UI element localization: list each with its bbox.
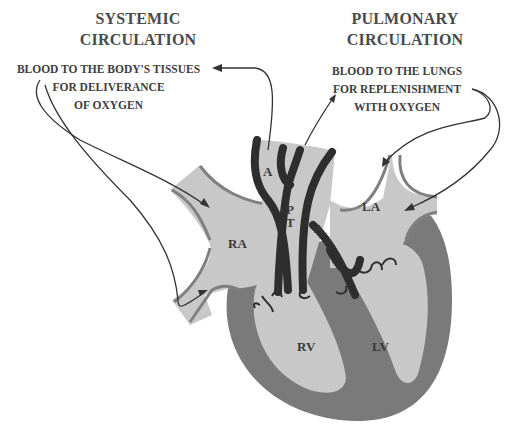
systemic-caption-line2: FOR DELIVERANCE <box>6 78 211 96</box>
systemic-circulation-title: SYSTEMIC CIRCULATION <box>68 8 208 50</box>
label-pulmonary-artery: A <box>314 222 323 235</box>
label-left-ventricle: LV <box>372 340 389 353</box>
label-left-atrium: LA <box>362 200 380 213</box>
pulmonary-circulation-title: PULMONARY CIRCULATION <box>325 8 485 50</box>
arrow-aorta-to-body <box>218 68 273 150</box>
heart-circulation-diagram: SYSTEMIC CIRCULATION PULMONARY CIRCULATI… <box>0 0 514 434</box>
label-aorta: A <box>263 165 272 178</box>
pulmonary-caption-line2: FOR REPLENISHMENT <box>322 80 472 98</box>
systemic-title-line2: CIRCULATION <box>68 29 208 50</box>
systemic-title-line1: SYSTEMIC <box>68 8 208 29</box>
label-pulmonary-trunk-t: T <box>286 216 295 229</box>
systemic-caption-line3: OF OXYGEN <box>6 96 211 114</box>
pulmonary-title-line2: CIRCULATION <box>325 29 485 50</box>
pulmonary-caption-line3: WITH OXYGEN <box>322 98 472 116</box>
label-right-ventricle: RV <box>297 340 315 353</box>
systemic-caption: BLOOD TO THE BODY'S TISSUES FOR DELIVERA… <box>6 60 211 114</box>
label-right-atrium: RA <box>228 237 247 250</box>
pulmonary-title-line1: PULMONARY <box>325 8 485 29</box>
pulmonary-caption-line1: BLOOD TO THE LUNGS <box>322 62 472 80</box>
pulmonary-caption: BLOOD TO THE LUNGS FOR REPLENISHMENT WIT… <box>322 62 472 116</box>
systemic-caption-line1: BLOOD TO THE BODY'S TISSUES <box>6 60 211 78</box>
